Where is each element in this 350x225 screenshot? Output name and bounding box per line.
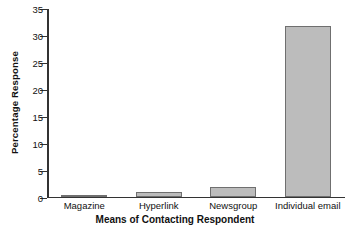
y-axis-title: Percentage Response [9,23,20,183]
y-tick-label: 10 [32,139,43,150]
bar-slot [47,10,122,197]
bar [210,187,256,197]
bar [136,192,182,196]
bar-slot [122,10,197,197]
bar-slot [271,10,346,197]
y-tick-label: 15 [32,112,43,123]
bar-series [47,10,345,197]
y-tick-label: 0 [38,193,43,204]
bar [61,195,107,197]
x-axis-title: Means of Contacting Respondent [0,214,350,225]
x-tick-label: Newsgroup [209,200,257,211]
y-tick-label: 35 [32,4,43,15]
bar-slot [196,10,271,197]
y-tick-label: 30 [32,31,43,42]
y-tick-label: 25 [32,58,43,69]
y-tick-label: 5 [38,166,43,177]
y-tick-label: 20 [32,85,43,96]
x-axis-line [47,197,345,199]
x-tick-label: Individual email [275,200,340,211]
bar [285,26,331,196]
plot-area: 05101520253035 MagazineHyperlinkNewsgrou… [47,9,345,198]
x-tick-label: Hyperlink [139,200,179,211]
bar-chart-figure: Percentage Response 05101520253035 Magaz… [0,0,350,225]
x-tick-label: Magazine [64,200,105,211]
